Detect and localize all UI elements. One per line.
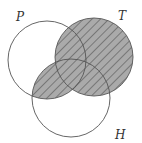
label-p: P [15,10,25,24]
venn-diagram: P T H [0,0,142,143]
label-t: T [118,9,127,23]
label-h: H [114,128,126,142]
